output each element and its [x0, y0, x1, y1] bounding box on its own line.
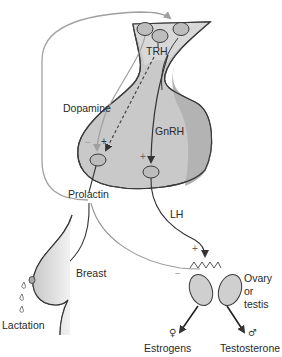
label-or: or — [244, 285, 254, 297]
label-lh: LH — [170, 208, 183, 220]
label-ovary: Ovary — [244, 272, 273, 284]
prolactin-to-gonad — [91, 203, 200, 269]
label-testosterone: Testosterone — [220, 342, 280, 354]
label-breast: Breast — [76, 267, 106, 279]
gnrh-stimulate-sign: + — [140, 151, 146, 162]
label-prolactin: Prolactin — [68, 188, 109, 200]
gonad-zigzag — [190, 262, 221, 268]
milk-drop-icon — [20, 294, 23, 300]
label-gnrh: GnRH — [155, 125, 184, 137]
trh-stimulate-sign: + — [101, 136, 107, 147]
label-dopamine: Dopamine — [63, 102, 111, 114]
hypothalamic-neuron-dopamine — [137, 23, 153, 36]
label-lactation: Lactation — [2, 319, 45, 331]
hypothalamic-neuron-gnrh — [173, 23, 189, 36]
breast-illustration — [29, 215, 72, 335]
lh-stimulate-sign: + — [192, 243, 198, 254]
estrogen-arrow — [180, 306, 198, 332]
milk-drop-icon — [20, 306, 23, 312]
testis-gonad — [214, 271, 246, 309]
ovary-gonad — [185, 271, 217, 309]
milk-drop-icon — [22, 282, 25, 288]
female-symbol-icon: ♀ — [169, 327, 176, 338]
label-estrogens: Estrogens — [144, 342, 191, 354]
hypothalamic-neuron-trh — [152, 30, 168, 43]
hormone-regulation-diagram: − + + TRH Dopamine GnRH Prolactin − LH +… — [0, 0, 282, 357]
gonadotroph-cell — [143, 166, 159, 178]
male-symbol-icon: ♂ — [248, 327, 257, 338]
testosterone-arrow — [227, 306, 244, 332]
dopamine-inhibit-sign: − — [85, 137, 91, 148]
label-trh: TRH — [146, 45, 168, 57]
nipple — [29, 277, 35, 284]
breast-fill-region — [33, 215, 72, 335]
lactotroph-cell — [90, 154, 106, 166]
label-testis: testis — [244, 298, 269, 310]
prolactin-gonad-inhibit-sign: − — [175, 268, 181, 279]
